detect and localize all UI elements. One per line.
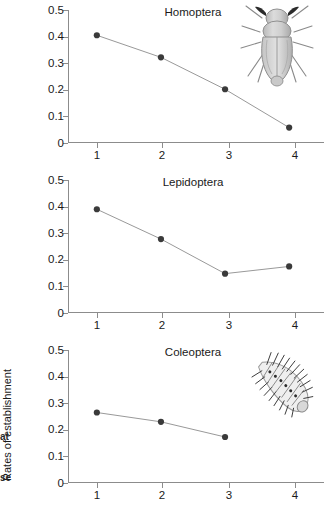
data-point — [222, 86, 228, 92]
x-tick-label: 2 — [159, 150, 165, 162]
y-tick-label: 0.1 — [48, 451, 64, 463]
figure-rates-of-establishment: 0.5 0.4 0.3 0.2 0.1 0 1 2 3 4 Homoptera — [0, 0, 324, 516]
caption-fragment: se — [0, 473, 11, 483]
y-tick-label: 0.2 — [48, 85, 64, 97]
y-tick-label: 0.2 — [48, 255, 64, 267]
x-tick-label: 3 — [226, 490, 232, 502]
y-tick-label: 0.4 — [48, 371, 64, 383]
data-point — [158, 54, 164, 60]
data-point — [286, 263, 292, 269]
x-tick-label: 4 — [292, 490, 298, 502]
y-tick-label: 0.2 — [48, 425, 64, 437]
y-tick-label: 0 — [58, 308, 64, 320]
data-point — [94, 206, 100, 212]
x-tick-label: 4 — [292, 320, 298, 332]
planthopper-dorsal-icon — [236, 2, 318, 90]
y-tick-label: 0.4 — [48, 201, 64, 213]
y-tick-label: 0.3 — [48, 398, 64, 410]
data-point — [158, 419, 164, 425]
series-lepidoptera — [68, 180, 318, 313]
y-tick-label: 0.5 — [48, 5, 64, 17]
caption-fragment: at — [0, 432, 9, 442]
x-tick-label: 3 — [226, 150, 232, 162]
data-point — [222, 271, 228, 277]
y-tick-label: 0.1 — [48, 111, 64, 123]
series-coleoptera — [68, 350, 318, 483]
panel-homoptera: 0.5 0.4 0.3 0.2 0.1 0 1 2 3 4 Homoptera — [0, 0, 324, 170]
x-tick-label: 1 — [94, 320, 100, 332]
plot-area-lepidoptera: 0.5 0.4 0.3 0.2 0.1 0 1 2 3 4 Lepidopter… — [68, 180, 318, 313]
x-tick-label: 2 — [159, 490, 165, 502]
plot-area-coleoptera: 0.5 0.4 0.3 0.2 0.1 0 1 2 3 4 Coleoptera — [68, 350, 318, 483]
y-tick-label: 0.5 — [48, 175, 64, 187]
y-tick-label: 0.4 — [48, 31, 64, 43]
y-tick-label: 0.1 — [48, 281, 64, 293]
series-line — [97, 209, 289, 273]
data-point — [94, 409, 100, 415]
x-tick-label: 1 — [94, 490, 100, 502]
data-point — [94, 32, 100, 38]
panel-coleoptera: 0.5 0.4 0.3 0.2 0.1 0 1 2 3 4 Coleoptera — [0, 340, 324, 516]
data-point — [286, 124, 292, 130]
panel-lepidoptera: 0.5 0.4 0.3 0.2 0.1 0 1 2 3 4 Lepidopter… — [0, 170, 324, 340]
y-tick-label: 0 — [58, 478, 64, 490]
x-tick-label: 3 — [226, 320, 232, 332]
x-tick-label: 4 — [292, 150, 298, 162]
x-tick-label: 2 — [159, 320, 165, 332]
y-tick-label: 0 — [58, 138, 64, 150]
y-tick-label: 0.3 — [48, 58, 64, 70]
y-tick-label: 0.3 — [48, 228, 64, 240]
data-point — [158, 236, 164, 242]
x-tick-label: 1 — [94, 150, 100, 162]
data-point — [222, 434, 228, 440]
y-tick-label: 0.5 — [48, 345, 64, 357]
